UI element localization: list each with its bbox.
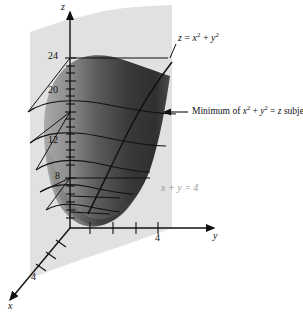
y-axis-label: y — [213, 231, 217, 242]
z-tick-label-20: 20 — [48, 85, 58, 96]
callout-line2-a: subject to — [284, 106, 303, 116]
plane-equation-label: x + y = 4 — [161, 183, 198, 194]
callout-line1-a: Minimum of — [192, 106, 240, 116]
z-axis-label: z — [61, 2, 65, 13]
z-tick-label-8: 8 — [55, 171, 60, 182]
z-tick-label-12: 12 — [48, 135, 58, 146]
x-tick-label-4: 4 — [31, 272, 36, 283]
figure-canvas — [0, 0, 303, 317]
z-tick-label-24: 24 — [48, 51, 58, 62]
callout-text: Minimum of x2 + y2 = z subject to x + y … — [192, 105, 303, 117]
surface-eq-equals: = — [184, 32, 190, 43]
y-tick-label-4: 4 — [155, 233, 160, 244]
surface-eq-z: z — [178, 32, 182, 43]
callout-line1-equals: = — [270, 106, 275, 116]
surface-equation-label: z = x2 + y2 — [178, 33, 219, 44]
surface-eq-plus: + — [203, 32, 209, 43]
callout-line1-plus: + — [253, 106, 258, 116]
callout-line1-z: z — [278, 106, 282, 116]
x-axis-label: x — [8, 301, 12, 312]
